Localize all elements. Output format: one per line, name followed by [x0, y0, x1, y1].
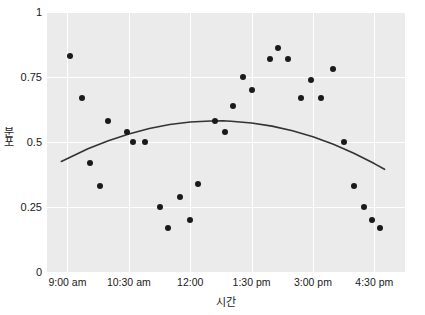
y-axis-title: 분포	[2, 126, 13, 146]
x-axis-tick-label: 4:30 pm	[355, 276, 393, 288]
y-axis-tick-label: 0.75	[0, 71, 42, 83]
data-point	[157, 204, 163, 210]
data-point	[165, 225, 171, 231]
data-point	[212, 118, 218, 124]
x-axis-tick-label: 12:00	[177, 276, 203, 288]
x-axis-tick-label: 3:00 pm	[294, 276, 332, 288]
x-axis-title: 시간	[216, 293, 236, 309]
data-point	[249, 87, 255, 93]
data-point	[124, 129, 130, 135]
data-point	[318, 95, 324, 101]
y-axis-tick-label: 1	[0, 6, 42, 18]
data-point	[298, 95, 304, 101]
data-point	[67, 53, 73, 59]
y-axis-tick-label: 0	[0, 266, 42, 278]
data-point	[308, 77, 314, 83]
data-point	[87, 160, 93, 166]
x-axis-tick-label: 10:30 am	[107, 276, 151, 288]
data-point	[267, 56, 273, 62]
y-axis-tick-label: 0.25	[0, 201, 42, 213]
trend-line	[47, 12, 405, 272]
x-axis-tick-label: 9:00 am	[48, 276, 86, 288]
data-point	[230, 103, 236, 109]
data-point	[195, 181, 201, 187]
scatter-chart-figure: 00.250.50.751 분포 9:00 am10:30 am12:001:3…	[0, 0, 425, 315]
data-point	[130, 139, 136, 145]
data-point	[351, 183, 357, 189]
plot-area	[47, 12, 405, 272]
data-point	[222, 129, 228, 135]
data-point	[177, 194, 183, 200]
x-axis-tick-label: 1:30 pm	[233, 276, 271, 288]
data-point	[341, 139, 347, 145]
data-point	[79, 95, 85, 101]
